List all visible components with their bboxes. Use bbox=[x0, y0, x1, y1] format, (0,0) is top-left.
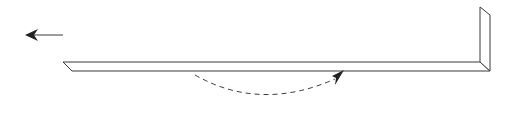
frame-diagram bbox=[0, 0, 513, 123]
frame-depth-right bbox=[480, 7, 490, 71]
length-count-arrow bbox=[195, 70, 344, 95]
arrowhead-icon bbox=[332, 70, 344, 85]
frame-depth-bottom bbox=[63, 62, 490, 71]
transmit-direction-arrow bbox=[25, 29, 63, 41]
